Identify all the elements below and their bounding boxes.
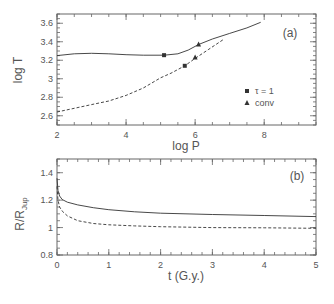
panel-a-frame [57,14,316,125]
y-tick-label: 1.4 [40,168,53,178]
y-tick-label: 3.6 [40,18,53,28]
panel-a-plot: 24682.62.833.23.43.6 (a) log P log T τ =… [11,14,316,153]
dashed-line [57,186,316,228]
panel-a-lines [57,22,261,112]
legend-square-icon [245,89,249,93]
y-tick-label: 1 [48,223,53,233]
y-tick-label: 3 [48,74,53,84]
panel-b-xlabel: t (G.y.) [168,269,204,283]
y-tick-label: 0.8 [40,250,53,260]
x-tick-label: 8 [262,130,267,140]
x-tick-label: 3 [210,260,215,270]
y-tick-label: 2.6 [40,111,53,121]
square-marker-icon [162,53,166,57]
y-tick-label: 3.2 [40,55,53,65]
x-tick-label: 2 [54,130,59,140]
legend-triangle-icon [245,100,250,105]
x-tick-label: 4 [124,130,129,140]
x-tick-label: 0 [54,260,59,270]
x-tick-label: 1 [106,260,111,270]
square-marker-icon [183,64,187,68]
x-tick-label: 5 [313,260,318,270]
legend: τ = 1 conv [245,86,275,108]
panel-b-ylabel-main: R/R [13,210,27,231]
panel-a-xlabel: log P [172,139,199,153]
panel-a-ylabel: log T [11,56,25,83]
legend-tau-label: τ = 1 [255,86,274,96]
y-tick-label: 1.2 [40,195,53,205]
dashed-line [57,40,223,112]
legend-conv-label: conv [255,98,275,108]
x-tick-label: 4 [262,260,267,270]
y-tick-label: 2.8 [40,92,53,102]
panel-b-frame [57,159,316,255]
panel-b-ylabel: R/RJup [13,197,29,231]
panel-b-lines [57,178,316,228]
panel-a-ticks: 24682.62.833.23.43.6 [40,14,316,140]
solid-line [57,22,261,55]
figure: 24682.62.833.23.43.6 (a) log P log T τ =… [0,0,334,304]
svg-text:R/RJup: R/RJup [13,197,29,231]
panel-b-ticks: 0123450.811.21.4 [40,159,318,270]
panel-a-label: (a) [283,26,298,40]
panel-b-ylabel-sub: Jup [20,197,29,210]
panel-b-label: (b) [290,169,305,183]
panel-b-plot: 0123450.811.21.4 (b) t (G.y.) R/RJup [13,159,319,283]
solid-line [57,178,316,216]
y-tick-label: 3.4 [40,37,53,47]
x-tick-label: 2 [158,260,163,270]
